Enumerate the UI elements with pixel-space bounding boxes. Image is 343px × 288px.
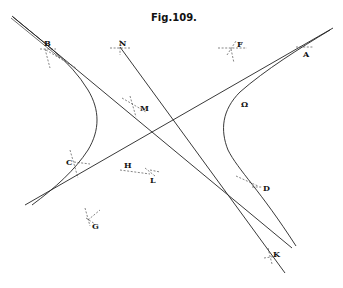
label-k: K (273, 249, 281, 259)
figure-title: Fig.109. (151, 12, 197, 23)
label-a: A (302, 49, 310, 59)
point-d-marker (236, 176, 262, 187)
hyperbola-right-branch (224, 30, 330, 246)
hyperbola-left-branch (13, 17, 97, 205)
label-b: B (44, 38, 51, 48)
asymptote-1-double-stroke (11, 18, 60, 58)
figure-109: Fig.109. B N F A M Ω (0, 0, 343, 288)
asymptote-2 (25, 28, 333, 205)
label-omega: Ω (241, 99, 248, 109)
label-g: G (92, 221, 99, 231)
label-n: N (119, 38, 126, 48)
label-f: F (237, 39, 243, 49)
label-d: D (263, 183, 270, 193)
label-c: C (66, 157, 72, 167)
point-b-marker (40, 49, 76, 68)
point-h-marker (120, 170, 150, 174)
label-h: H (124, 160, 132, 170)
line-n-k (120, 47, 285, 273)
label-m: M (140, 103, 149, 113)
label-l: L (150, 175, 156, 185)
